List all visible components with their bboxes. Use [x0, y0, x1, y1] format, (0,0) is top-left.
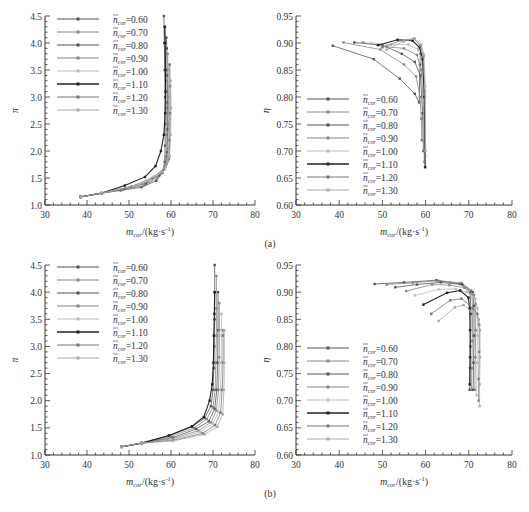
legend-entry: ncor=1.10: [307, 409, 398, 420]
legend-entry: ncor=0.90: [57, 302, 148, 313]
data-point: [470, 310, 472, 312]
data-point: [132, 185, 134, 187]
data-point: [218, 329, 220, 331]
y-axis-title: π: [9, 357, 20, 363]
data-point: [197, 429, 199, 431]
data-point: [462, 304, 464, 306]
legend-label: ncor=1.30: [363, 435, 398, 446]
data-point: [468, 383, 470, 385]
data-point: [437, 320, 439, 322]
data-point: [420, 43, 422, 45]
legend-label: ncor=0.60: [363, 95, 398, 106]
x-axis-unit: /(kg·s: [142, 476, 165, 488]
x-axis-title: mcor/(kg·s-1): [126, 475, 174, 488]
legend-entry: ncor=1.00: [57, 67, 148, 78]
legend-value: =1.00: [126, 67, 148, 77]
legend-marker: [77, 44, 80, 47]
y-tick-label: 0.90: [276, 288, 293, 298]
series-line: [387, 281, 473, 390]
data-point: [440, 281, 442, 283]
data-point: [353, 41, 355, 43]
legend-value: =1.20: [376, 173, 398, 183]
x-tick-label: 40: [82, 210, 92, 220]
data-point: [460, 297, 462, 299]
legend-entry: ncor=1.10: [57, 328, 148, 339]
legend-marker: [77, 344, 80, 347]
legend-label: ncor=1.20: [113, 341, 148, 352]
data-point: [164, 90, 166, 92]
data-point: [211, 383, 213, 385]
legend-value: =1.20: [126, 341, 148, 351]
legend-label: ncor=0.60: [113, 263, 148, 274]
data-point: [454, 306, 456, 308]
data-point: [144, 176, 146, 178]
data-point: [478, 383, 480, 385]
legend-value: =1.10: [376, 160, 398, 170]
legend-entry: ncor=0.90: [57, 54, 148, 65]
legend-value: =0.90: [126, 302, 148, 312]
data-point: [478, 318, 480, 320]
legend-value: =0.70: [376, 357, 398, 367]
data-point: [377, 44, 379, 46]
y-axis-title: π: [9, 107, 20, 113]
x-axis-symbol: m: [126, 476, 133, 487]
legend-marker: [327, 347, 330, 350]
legend-entry: ncor=0.60: [57, 15, 148, 26]
data-point: [218, 302, 220, 304]
data-point: [373, 58, 375, 60]
data-point: [216, 426, 218, 428]
x-tick-label: 80: [250, 210, 260, 220]
legend-marker: [77, 109, 80, 112]
data-point: [155, 180, 157, 182]
data-point: [416, 283, 418, 285]
y-tick-label: 2.5: [30, 369, 42, 379]
legend-entry: ncor=1.00: [307, 396, 398, 407]
data-point: [220, 313, 222, 315]
legend-marker: [327, 137, 330, 140]
x-tick-label: 80: [507, 210, 517, 220]
legend-entry: ncor=0.80: [57, 289, 148, 300]
x-tick-label: 60: [166, 210, 176, 220]
data-point: [401, 39, 403, 41]
legend-value: =0.90: [376, 383, 398, 393]
data-point: [423, 54, 425, 56]
x-axis-close: ): [425, 476, 428, 488]
data-point: [471, 340, 473, 342]
data-point: [213, 334, 215, 336]
legend-marker: [77, 305, 80, 308]
x-tick-label: 80: [250, 460, 260, 470]
legend-entry: ncor=1.20: [57, 93, 148, 104]
data-point: [475, 329, 477, 331]
chart-b-eta: 3040506070800.600.650.700.750.800.850.90…: [260, 261, 517, 489]
data-point: [223, 389, 225, 391]
data-point: [405, 290, 407, 292]
series-1.30: [437, 304, 481, 407]
y-tick-label: 0.70: [276, 396, 293, 406]
legend-label: ncor=1.20: [113, 93, 148, 104]
data-point: [170, 107, 172, 109]
data-point: [210, 405, 212, 407]
data-point: [474, 297, 476, 299]
legend-marker: [327, 163, 330, 166]
legend-entry: ncor=1.00: [57, 315, 148, 326]
data-point: [419, 96, 421, 98]
data-point: [411, 282, 413, 284]
y-tick-label: 3.0: [30, 93, 42, 103]
legend-label: ncor=1.20: [363, 422, 398, 433]
data-point: [124, 184, 126, 186]
y-tick-label: 0.65: [276, 174, 293, 184]
legend-label: ncor=1.30: [363, 186, 398, 197]
data-point: [407, 43, 409, 45]
legend-value: =0.90: [376, 134, 398, 144]
legend-marker: [77, 357, 80, 360]
legend-label: ncor=0.60: [113, 15, 148, 26]
y-tick-label: 3.0: [30, 342, 42, 352]
data-point: [455, 288, 457, 290]
legend-entry: ncor=1.30: [307, 186, 398, 197]
legend-value: =0.60: [376, 344, 398, 354]
data-point: [164, 112, 166, 114]
data-point: [467, 296, 469, 298]
legend-marker: [77, 83, 80, 86]
y-tick-label: 1.0: [30, 451, 42, 461]
data-point: [421, 139, 423, 141]
